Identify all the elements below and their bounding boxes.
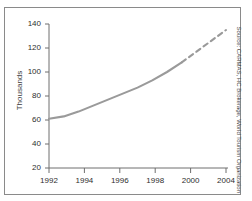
- x-tick-label-1996: 1996: [103, 177, 137, 185]
- x-tick-label-1994: 1994: [67, 177, 101, 185]
- y-tick-label-80: 80: [17, 92, 41, 100]
- x-tick-label-1998: 1998: [138, 177, 172, 185]
- y-tick-label-140: 140: [17, 20, 41, 28]
- series-line-forecast: [182, 30, 226, 62]
- x-tick-label-1992: 1992: [32, 177, 66, 185]
- y-tick-label-100: 100: [17, 68, 41, 76]
- y-tick-label-20: 20: [17, 164, 41, 172]
- plot-area: Thousands 140 120 100 80 60 40 20 1992 1…: [5, 8, 242, 196]
- y-tick-label-60: 60: [17, 116, 41, 124]
- y-tick-label-40: 40: [17, 140, 41, 148]
- series-line-actual: [49, 62, 182, 118]
- source-note: Source: CARMAS, HC Brokerage, World Tour…: [234, 7, 243, 195]
- x-tick-label-2000: 2000: [174, 177, 208, 185]
- figure-title: GROWTH IN HOTEL ROOMS: [0, 0, 252, 7]
- chart-frame: Thousands 140 120 100 80 60 40 20 1992 1…: [4, 7, 241, 195]
- y-tick-label-120: 120: [17, 44, 41, 52]
